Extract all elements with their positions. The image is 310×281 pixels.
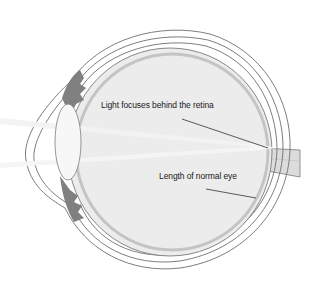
label-length-normal-eye: Length of normal eye: [159, 171, 237, 181]
vitreous-body: [68, 48, 272, 256]
eye-diagram: [0, 0, 310, 281]
label-focus-behind-retina: Light focuses behind the retina: [101, 100, 214, 110]
lens: [55, 104, 81, 180]
